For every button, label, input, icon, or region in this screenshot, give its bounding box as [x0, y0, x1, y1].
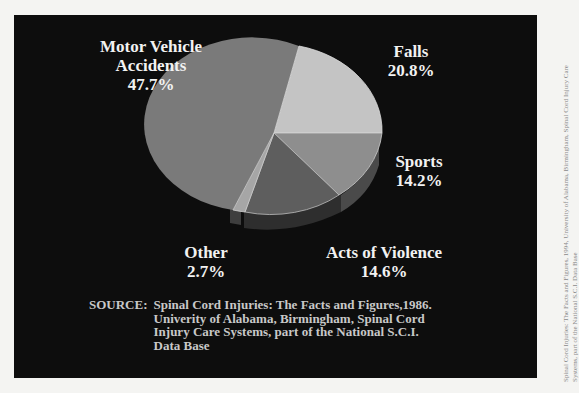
label-violence-name: Acts of Violence	[314, 243, 454, 262]
label-motor-value: 47.7%	[76, 75, 226, 94]
label-acts-of-violence: Acts of Violence 14.6%	[314, 243, 454, 281]
label-motor-line1: Motor Vehicle	[76, 37, 226, 56]
label-motor-line2: Accidents	[76, 56, 226, 75]
source-line: Univerity of Alabama, Birmingham, Spinal…	[154, 312, 432, 326]
label-motor-vehicle: Motor Vehicle Accidents 47.7%	[76, 37, 226, 94]
label-other-value: 2.7%	[176, 262, 236, 281]
side-caption: Spinal Cord Injuries: The Facts and Figu…	[562, 12, 579, 382]
source-line: Spinal Cord Injuries: The Facts and Figu…	[154, 298, 432, 312]
side-caption-line: Systems, part of the National S.C.I. Dat…	[571, 12, 579, 382]
label-falls-value: 20.8%	[376, 61, 446, 80]
source-key: SOURCE:	[89, 298, 148, 352]
source-line: Data Base	[154, 339, 432, 353]
source-citation: SOURCE: Spinal Cord Injuries: The Facts …	[89, 298, 432, 352]
source-lines: Spinal Cord Injuries: The Facts and Figu…	[154, 298, 432, 352]
label-sports: Sports 14.2%	[384, 152, 454, 190]
label-falls-name: Falls	[376, 42, 446, 61]
label-other: Other 2.7%	[176, 243, 236, 281]
label-falls: Falls 20.8%	[376, 42, 446, 80]
label-other-name: Other	[176, 243, 236, 262]
side-caption-line: Spinal Cord Injuries: The Facts and Figu…	[562, 12, 571, 382]
label-violence-value: 14.6%	[314, 262, 454, 281]
source-line: Injury Care Systems, part of the Nationa…	[154, 325, 432, 339]
label-sports-name: Sports	[384, 152, 454, 171]
label-sports-value: 14.2%	[384, 171, 454, 190]
